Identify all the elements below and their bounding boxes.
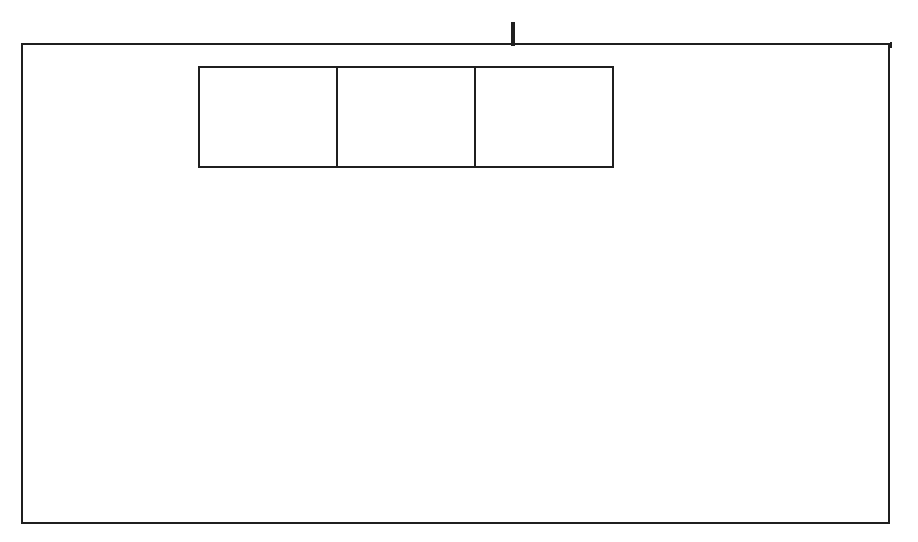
top-process-row [198, 66, 614, 168]
top-divider-1 [336, 66, 338, 168]
header-connector-line [890, 42, 892, 48]
top-divider-2 [474, 66, 476, 168]
signal-header-bar [511, 22, 515, 46]
